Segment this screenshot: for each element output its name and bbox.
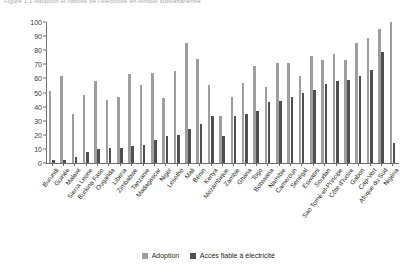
x-tick-mark: [279, 163, 280, 166]
x-tick-mark: [211, 163, 212, 166]
x-tick-mark: [324, 163, 325, 166]
bar-reliable: [109, 148, 112, 164]
bar-reliable: [370, 70, 373, 163]
bar-adoption: [49, 91, 52, 163]
bar-pair: [219, 22, 225, 163]
bar-group: [103, 22, 114, 163]
x-tick-mark: [86, 163, 87, 166]
bar-pair: [106, 22, 112, 163]
x-axis-labels: BurundiGuinéeMalawiSierra LeoneBurkina F…: [46, 167, 398, 229]
bar-reliable: [256, 111, 259, 163]
bar-reliable: [166, 136, 169, 163]
x-tick-mark: [245, 163, 246, 166]
x-tick-mark: [120, 163, 121, 166]
bar-group: [205, 22, 216, 163]
bar-pair: [321, 22, 327, 163]
x-tick-mark: [97, 163, 98, 166]
bar-group: [387, 22, 398, 163]
bar-group: [171, 22, 182, 163]
bar-pair: [299, 22, 305, 163]
bar-group: [228, 22, 239, 163]
bar-group: [341, 22, 352, 163]
bar-pair: [174, 22, 180, 163]
bar-reliable: [177, 135, 180, 163]
bar-group: [319, 22, 330, 163]
bar-group: [273, 22, 284, 163]
bar-adoption: [390, 22, 393, 163]
bar-reliable: [211, 116, 214, 163]
bar-pair: [208, 22, 214, 163]
bar-pair: [83, 22, 89, 163]
bar-group: [330, 22, 341, 163]
legend-label: Accès fiable à électricité: [200, 252, 275, 259]
bar-group: [137, 22, 148, 163]
legend-item-reliable[interactable]: Accès fiable à électricité: [190, 252, 275, 259]
x-tick-mark: [154, 163, 155, 166]
bar-pair: [242, 22, 248, 163]
bar-group: [91, 22, 102, 163]
x-tick-mark: [347, 163, 348, 166]
bar-group: [307, 22, 318, 163]
bar-reliable: [291, 97, 294, 163]
legend-swatch-adoption: [142, 253, 148, 259]
bar-series-container: [46, 22, 398, 163]
bar-adoption: [60, 76, 63, 163]
legend-label: Adoption: [152, 252, 180, 259]
bar-group: [126, 22, 137, 163]
bar-reliable: [97, 149, 100, 163]
bar-pair: [333, 22, 339, 163]
bar-reliable: [336, 81, 339, 163]
bar-group: [296, 22, 307, 163]
bar-pair: [140, 22, 146, 163]
bar-reliable: [154, 140, 157, 163]
bar-reliable: [86, 152, 89, 163]
x-tick-mark: [188, 163, 189, 166]
bar-pair: [310, 22, 316, 163]
bar-reliable: [302, 93, 305, 164]
bar-group: [46, 22, 57, 163]
x-tick-mark: [313, 163, 314, 166]
bar-pair: [128, 22, 134, 163]
bar-pair: [276, 22, 282, 163]
bar-reliable: [325, 84, 328, 163]
bar-adoption: [72, 114, 75, 163]
bar-reliable: [381, 52, 384, 163]
bar-reliable: [245, 114, 248, 163]
x-tick-mark: [222, 163, 223, 166]
bar-reliable: [359, 76, 362, 163]
x-tick-mark: [381, 163, 382, 166]
bar-pair: [378, 22, 384, 163]
bar-pair: [151, 22, 157, 163]
bar-group: [57, 22, 68, 163]
x-tick-mark: [177, 163, 178, 166]
bar-reliable: [234, 116, 237, 163]
bar-group: [80, 22, 91, 163]
figure-title: Figure 1.1 Adoption et fiabilité de l'él…: [4, 0, 201, 4]
bar-pair: [355, 22, 361, 163]
bar-reliable: [120, 148, 123, 164]
bar-pair: [49, 22, 55, 163]
bar-pair: [72, 22, 78, 163]
bar-reliable: [347, 80, 350, 163]
bar-reliable: [200, 124, 203, 163]
x-tick-mark: [256, 163, 257, 166]
bar-group: [194, 22, 205, 163]
bar-pair: [253, 22, 259, 163]
bar-pair: [185, 22, 191, 163]
x-tick-mark: [131, 163, 132, 166]
bar-pair: [287, 22, 293, 163]
bar-group: [375, 22, 386, 163]
x-tick-mark: [290, 163, 291, 166]
bar-pair: [367, 22, 373, 163]
bar-group: [160, 22, 171, 163]
legend-item-adoption[interactable]: Adoption: [142, 252, 179, 259]
bar-reliable: [313, 90, 316, 163]
bar-pair: [162, 22, 168, 163]
bar-pair: [94, 22, 100, 163]
bar-reliable: [222, 136, 225, 163]
y-axis-label-wrap: Share of households (percent): [8, 22, 18, 163]
bar-group: [262, 22, 273, 163]
figure-root: Figure 1.1 Adoption et fiabilité de l'él…: [0, 0, 417, 266]
bar-group: [216, 22, 227, 163]
plot-area: 0102030405060708090100: [46, 22, 398, 163]
